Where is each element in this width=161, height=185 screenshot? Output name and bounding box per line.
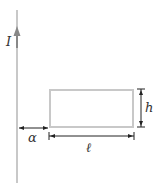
current-label: I	[5, 34, 12, 49]
length-arrow-left-icon	[50, 134, 55, 138]
height-arrow-bottom-icon	[139, 121, 143, 126]
wire-loop-diagram: I α ℓ h	[0, 0, 161, 185]
rectangular-loop	[50, 90, 133, 127]
height-arrow-top-icon	[139, 90, 143, 95]
height-label: h	[145, 100, 153, 115]
length-label: ℓ	[86, 140, 92, 155]
distance-label: α	[28, 130, 37, 145]
distance-arrow-right-icon	[43, 126, 48, 130]
distance-arrow-left-icon	[19, 126, 24, 130]
length-arrow-right-icon	[128, 134, 133, 138]
